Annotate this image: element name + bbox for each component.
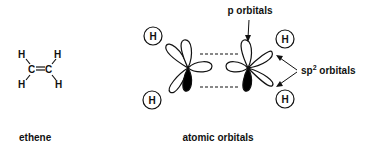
hydrogen-bottom-left: H [143, 91, 161, 109]
sp2-arrow-lower [276, 72, 297, 87]
ethene-caption: ethene [19, 132, 52, 143]
atomic-orbitals-caption: atomic orbitals [182, 132, 254, 143]
ethene-h-bottom-left: H [18, 79, 25, 90]
sp2-lobe-right [188, 62, 212, 72]
right-carbon-orbitals [226, 40, 273, 91]
bond-ch-bottom-left [26, 75, 30, 80]
hydrogen-bottom-right: H [276, 90, 294, 108]
h-label: H [149, 31, 156, 42]
p-orbitals-label: p orbitals [227, 5, 272, 16]
atomic-orbitals-diagram: H H [143, 5, 356, 143]
sp2-label-main: sp [301, 65, 313, 76]
sp2-label-rest: orbitals [317, 65, 356, 76]
ethene-h-top-right: H [54, 49, 61, 60]
p-lobe-down-shaded [243, 68, 252, 91]
ethene-structure: H H C C H H ethene [18, 49, 62, 143]
bond-ch-bottom-right [52, 75, 56, 80]
h-label: H [281, 34, 288, 45]
sp2-lobe-left [226, 62, 248, 72]
ethene-h-bottom-right: H [55, 79, 62, 90]
sp2-orbitals-label: sp2 orbitals [301, 64, 356, 76]
hydrogen-top-right: H [276, 30, 294, 48]
p-orbitals-arrow [245, 20, 251, 42]
sp2-arrow-upper [276, 55, 297, 70]
ethene-h-top-left: H [18, 49, 25, 60]
h-label: H [281, 94, 288, 105]
left-carbon-orbitals [166, 40, 212, 93]
hydrogen-top-left: H [144, 27, 162, 45]
ethene-c-left: C [28, 64, 35, 75]
h-label: H [148, 95, 155, 106]
ethene-c-right: C [45, 64, 52, 75]
diagram-canvas: H H C C H H ethene H H [0, 0, 369, 149]
